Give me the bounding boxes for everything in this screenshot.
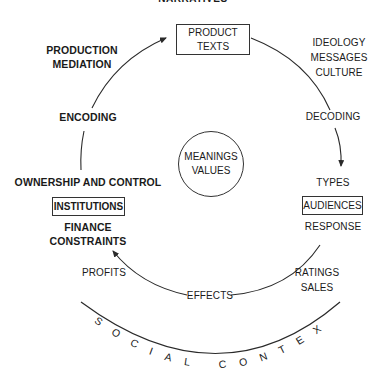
- ideology-label: IDEOLOGY: [312, 36, 365, 50]
- response-label: RESPONSE: [305, 220, 361, 234]
- types-label: TYPES: [316, 176, 349, 190]
- product-texts-line2: TEXTS: [197, 40, 229, 54]
- decoding-label: DECODING: [306, 110, 361, 124]
- decoding-arrow: [335, 128, 341, 166]
- narratives-label: NARRATIVES: [158, 0, 227, 4]
- product-texts-line1: PRODUCT: [188, 26, 237, 40]
- mediation-label: MEDIATION: [52, 57, 111, 71]
- finance-label: FINANCE: [64, 220, 111, 234]
- constraints-label: CONSTRAINTS: [50, 234, 127, 248]
- profits-label: PROFITS: [82, 266, 126, 280]
- audiences-label: AUDIENCES: [303, 199, 361, 213]
- meanings-values-circle: MEANINGS VALUES: [178, 131, 244, 197]
- production-label: PRODUCTION: [46, 43, 118, 57]
- audiences-box: AUDIENCES: [302, 196, 363, 215]
- ownership-label: OWNERSHIP AND CONTROL: [15, 175, 162, 189]
- encoding-label: ENCODING: [59, 110, 116, 124]
- sales-label: SALES: [301, 281, 334, 295]
- messages-label: MESSAGES: [311, 51, 368, 65]
- ratings-label: RATINGS: [295, 266, 339, 280]
- social-context-arc: [81, 302, 340, 354]
- media-cycle-diagram: NARRATIVES PRODUCT TEXTS PRODUCTION MEDI…: [0, 0, 386, 376]
- effects-label: EFFECTS: [187, 289, 233, 303]
- institutions-label: INSTITUTIONS: [54, 200, 123, 214]
- institutions-box: INSTITUTIONS: [52, 197, 125, 216]
- culture-label: CULTURE: [315, 66, 362, 80]
- meanings-label: MEANINGS: [184, 150, 237, 164]
- values-label: VALUES: [192, 164, 231, 178]
- product-texts-box: PRODUCT TEXTS: [176, 24, 250, 55]
- encoding-line: [81, 131, 84, 170]
